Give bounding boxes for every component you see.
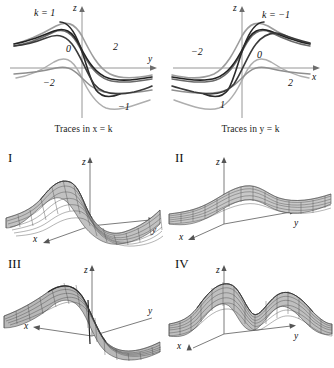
x-axis-label: x <box>176 341 182 351</box>
curve-label-level-2: 2 <box>288 77 293 88</box>
curve-label-k-equals-1: k = 1 <box>34 7 55 18</box>
curve-label-level-1: 1 <box>220 99 225 110</box>
surface-plot-I: z y x <box>0 148 167 256</box>
caption-traces-x: Traces in x = k <box>0 124 167 134</box>
surface-plot-II: z y x <box>167 148 334 256</box>
trace-plot-y-equals-k: z x k = −1 −2 0 2 1 <box>167 0 334 122</box>
curve-label-level-minus-1: −1 <box>118 101 130 112</box>
z-axis-label: z <box>232 3 237 13</box>
z-axis-label: z <box>72 3 77 13</box>
z-axis-arrowhead <box>221 265 226 271</box>
x-axis-arrowhead <box>313 65 320 71</box>
x-axis-arrowhead <box>43 238 50 243</box>
z-axis-arrowhead <box>79 6 85 12</box>
z-axis-label: z <box>83 265 88 275</box>
z-axis-arrowhead <box>239 6 245 12</box>
z-axis-label: z <box>215 157 220 167</box>
y-axis-label: y <box>147 306 153 316</box>
figure-traces-and-surfaces: z y k = 1 0 2 −2 −1 <box>0 0 334 368</box>
z-axis-label: z <box>215 265 220 275</box>
y-axis-arrowhead <box>289 323 296 328</box>
y-axis-label: y <box>293 218 299 228</box>
curve-label-level-0: 0 <box>66 43 71 54</box>
y-axis-label: y <box>147 54 153 64</box>
x-axis-label: x <box>311 72 317 82</box>
x-axis <box>38 328 92 336</box>
surface-mesh-I <box>6 180 163 246</box>
axes-group: z y <box>10 3 157 118</box>
trace-plot-x-equals-k: z y k = 1 0 2 −2 −1 <box>0 0 167 122</box>
surface-plot-III: y x z <box>0 256 167 368</box>
z-axis-label: z <box>81 157 86 167</box>
x-axis-arrowhead <box>187 344 192 350</box>
y-axis-label: y <box>293 331 299 341</box>
y-axis <box>224 212 291 224</box>
z-axis-arrowhead <box>89 265 94 271</box>
curve-label-k-equals-minus-1: k = −1 <box>262 9 290 20</box>
caption-text-left: Traces in x = k <box>54 124 112 134</box>
curve-label-level-2: 2 <box>113 41 118 52</box>
trace-curve-k-minus-1 <box>16 59 150 109</box>
x-axis <box>193 224 224 238</box>
surface-mesh-IV <box>169 282 332 337</box>
x-axis-label: x <box>178 232 184 242</box>
surface-body <box>169 284 332 337</box>
trace-curve-lower-dark <box>14 36 152 94</box>
caption-traces-y: Traces in y = k <box>167 124 334 134</box>
curve-label-level-minus-2: −2 <box>43 77 55 88</box>
x-axis-arrowhead <box>33 325 40 330</box>
x-axis <box>193 334 224 348</box>
caption-text-right: Traces in y = k <box>221 124 279 134</box>
curve-label-level-minus-2: −2 <box>191 46 203 57</box>
curve-label-level-0: 0 <box>257 49 262 60</box>
y-axis <box>92 318 152 336</box>
trace-curves-y <box>172 22 310 109</box>
x-axis <box>48 226 90 241</box>
x-axis-arrowhead <box>188 235 195 240</box>
y-axis-arrowhead <box>150 65 157 71</box>
z-axis-arrowhead <box>87 157 92 163</box>
surface-plot-IV: z y x <box>167 256 334 368</box>
x-axis-label: x <box>32 234 38 244</box>
z-axis-arrowhead <box>221 157 226 163</box>
trace-curves-x <box>14 22 152 109</box>
